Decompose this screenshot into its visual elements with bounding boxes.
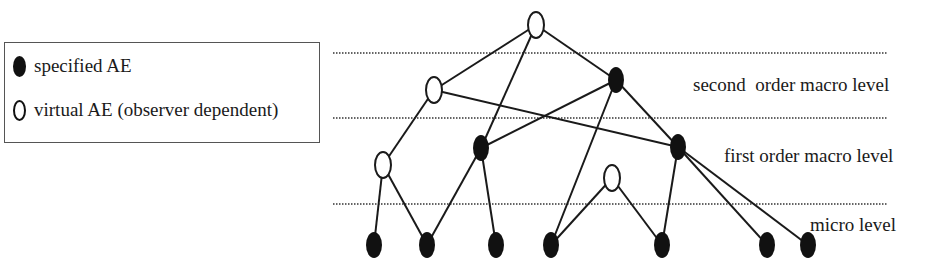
level-label-second-order: second order macro level xyxy=(693,74,889,96)
legend-label: virtual AE (observer dependent) xyxy=(34,99,278,121)
legend-label: specified AE xyxy=(34,55,132,77)
specified-ae-node xyxy=(670,134,686,160)
edge xyxy=(383,90,434,165)
legend-item-specified: specified AE xyxy=(13,55,132,77)
edge xyxy=(551,178,612,245)
specified-ae-node xyxy=(608,67,624,93)
edge xyxy=(383,165,427,245)
virtual-ae-node xyxy=(528,12,544,38)
edge xyxy=(427,148,481,245)
edge xyxy=(551,80,616,245)
level-label-first-order: first order macro level xyxy=(724,145,893,167)
edge xyxy=(616,80,678,147)
specified-ae-node xyxy=(543,232,559,258)
edge xyxy=(434,90,678,147)
legend: specified AE virtual AE (observer depend… xyxy=(4,42,320,143)
virtual-ae-node xyxy=(426,77,442,103)
specified-ae-node xyxy=(759,232,775,258)
filled-ellipse-icon xyxy=(13,56,26,77)
specified-ae-node xyxy=(488,232,504,258)
edge xyxy=(481,148,496,245)
specified-ae-node xyxy=(473,135,489,161)
legend-item-virtual: virtual AE (observer dependent) xyxy=(13,99,278,121)
hollow-ellipse-icon xyxy=(13,100,26,121)
specified-ae-node xyxy=(654,232,670,258)
edge xyxy=(612,178,662,245)
virtual-ae-node xyxy=(375,152,391,178)
edge xyxy=(662,147,678,245)
nodes xyxy=(366,12,816,258)
edge xyxy=(481,80,616,148)
edges xyxy=(374,25,808,245)
specified-ae-node xyxy=(419,232,435,258)
virtual-ae-node xyxy=(604,165,620,191)
specified-ae-node xyxy=(366,232,382,258)
level-label-micro: micro level xyxy=(810,214,896,236)
